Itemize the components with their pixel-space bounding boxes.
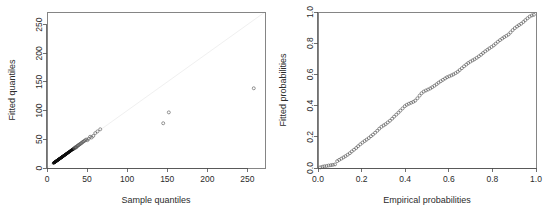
x-tick-label: 0.0: [312, 174, 324, 184]
x-axis: 050100150200250: [45, 168, 255, 184]
data-points: [52, 87, 255, 165]
y-axis: 050100150200250: [34, 17, 47, 170]
y-tick-label: 0.8: [305, 37, 315, 49]
x-tick-label: 0.2: [356, 174, 368, 184]
y-tick-label: 50: [34, 134, 44, 144]
x-tick-label: 0: [45, 174, 50, 184]
y-tick-label: 150: [34, 75, 44, 89]
x-tick-label: 0.8: [486, 174, 498, 184]
x-tick-label: 200: [200, 174, 214, 184]
qq-plot-canvas: 050100150200250050100150200250Sample qua…: [0, 0, 272, 215]
y-axis: 0.00.20.40.60.81.0: [305, 6, 318, 174]
x-tick-label: 100: [120, 174, 134, 184]
y-tick-label: 200: [34, 46, 44, 60]
y-tick-label: 0: [34, 165, 44, 170]
y-tick-label: 0.6: [305, 68, 315, 80]
y-tick-label: 1.0: [305, 6, 315, 18]
data-point: [162, 122, 165, 125]
data-point: [492, 44, 495, 47]
y-tick-label: 0.0: [305, 162, 315, 174]
x-tick-label: 250: [240, 174, 254, 184]
data-point: [252, 87, 255, 90]
data-point: [167, 111, 170, 114]
data-point: [480, 53, 483, 56]
x-axis: 0.00.20.40.60.81.0: [312, 168, 542, 184]
y-axis-title: Fitted probabilities: [278, 53, 288, 127]
pp-plot-panel: 0.00.20.40.60.81.00.00.20.40.60.81.0Empi…: [271, 0, 543, 215]
y-tick-label: 0.2: [305, 131, 315, 143]
data-point: [369, 135, 372, 138]
x-tick-label: 0.4: [399, 174, 411, 184]
y-tick-label: 0.4: [305, 99, 315, 111]
x-tick-label: 150: [160, 174, 174, 184]
y-tick-label: 250: [34, 17, 44, 31]
x-axis-title: Empirical probabilities: [383, 195, 471, 205]
qq-plot-panel: 050100150200250050100150200250Sample qua…: [0, 0, 272, 215]
data-point: [532, 13, 535, 16]
y-axis-title: Fitted quantiles: [7, 59, 17, 121]
data-point: [416, 97, 419, 100]
x-axis-title: Sample quantiles: [121, 195, 191, 205]
x-tick-label: 50: [82, 174, 92, 184]
plot-frame: [318, 12, 536, 168]
x-tick-label: 1.0: [530, 174, 542, 184]
figure-root: 050100150200250050100150200250Sample qua…: [0, 0, 543, 215]
data-points: [319, 13, 536, 169]
y-tick-label: 100: [34, 103, 44, 117]
data-point: [348, 152, 351, 155]
x-tick-label: 0.6: [443, 174, 455, 184]
pp-plot-canvas: 0.00.20.40.60.81.00.00.20.40.60.81.0Empi…: [271, 0, 543, 215]
